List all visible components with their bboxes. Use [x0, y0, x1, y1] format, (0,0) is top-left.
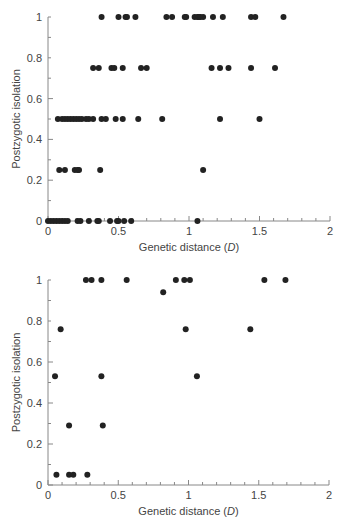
x-axis-title: Genetic distance (D)	[139, 241, 239, 253]
x-tick-label: 0	[45, 489, 51, 501]
data-point	[194, 373, 200, 379]
y-tick-label: 1	[36, 274, 42, 286]
x-tick-label: 0.5	[111, 225, 126, 237]
x-axis-title: Genetic distance (D)	[138, 505, 238, 517]
y-tick-label: 0	[36, 479, 42, 491]
data-point	[187, 277, 193, 283]
y-tick-label: 0.2	[27, 438, 42, 450]
data-point	[200, 167, 206, 173]
data-point	[217, 116, 223, 122]
data-point	[97, 167, 103, 173]
x-tick-label: 1	[185, 489, 191, 501]
data-point	[99, 14, 105, 20]
data-point	[209, 65, 215, 71]
data-point	[65, 218, 71, 224]
y-axis-title: Postzygotic isolation	[10, 333, 22, 433]
data-point	[103, 116, 109, 122]
data-point	[217, 65, 223, 71]
data-point	[116, 218, 122, 224]
data-point	[58, 326, 64, 332]
data-point	[124, 277, 130, 283]
data-point	[70, 472, 76, 478]
data-point	[128, 218, 134, 224]
data-point	[144, 65, 150, 71]
data-point	[96, 218, 102, 224]
data-point	[194, 218, 200, 224]
data-point	[252, 14, 258, 20]
data-point	[62, 167, 68, 173]
data-point	[183, 326, 189, 332]
data-point	[248, 65, 254, 71]
y-tick-label: 0.6	[27, 93, 42, 105]
y-tick-label: 0.4	[27, 397, 42, 409]
x-tick-label: 1.5	[252, 225, 267, 237]
data-point	[282, 277, 288, 283]
data-point	[160, 289, 166, 295]
data-point	[111, 65, 117, 71]
data-point	[66, 423, 72, 429]
data-point	[181, 277, 187, 283]
data-point	[86, 218, 92, 224]
data-point	[116, 14, 122, 20]
scatter-plot-bottom: 00.20.40.60.8100.511.52Genetic distance …	[0, 265, 346, 530]
y-tick-label: 0.8	[27, 52, 42, 64]
data-point	[83, 277, 89, 283]
data-point	[120, 116, 126, 122]
data-point	[90, 116, 96, 122]
x-tick-label: 1.5	[251, 489, 266, 501]
x-tick-label: 2	[326, 489, 332, 501]
data-point	[124, 14, 130, 20]
data-point	[210, 14, 216, 20]
y-axis-title: Postzygotic isolation	[10, 69, 22, 169]
data-point	[169, 14, 175, 20]
scatter-plot-top: 00.20.40.60.8100.511.52Genetic distance …	[0, 0, 346, 265]
data-point	[53, 472, 59, 478]
y-tick-label: 0.8	[27, 315, 42, 327]
data-point	[84, 472, 90, 478]
x-tick-label: 0	[45, 225, 51, 237]
y-tick-label: 0.6	[27, 356, 42, 368]
data-point	[280, 14, 286, 20]
scatter-panel-top: 00.20.40.60.8100.511.52Genetic distance …	[0, 0, 346, 265]
data-point	[135, 116, 141, 122]
data-point	[159, 116, 165, 122]
data-point	[120, 65, 126, 71]
data-point	[257, 116, 263, 122]
x-tick-label: 0.5	[111, 489, 126, 501]
data-point	[183, 14, 189, 20]
data-point	[220, 14, 226, 20]
data-point	[89, 277, 95, 283]
data-point	[77, 218, 83, 224]
data-point	[52, 373, 58, 379]
data-point	[261, 277, 267, 283]
data-point	[76, 167, 82, 173]
y-tick-label: 0.4	[27, 133, 42, 145]
data-point	[98, 373, 104, 379]
data-point	[98, 277, 104, 283]
data-point	[138, 65, 144, 71]
data-point	[113, 116, 119, 122]
y-tick-label: 0	[36, 215, 42, 227]
data-point	[121, 218, 127, 224]
scatter-panel-bottom: 00.20.40.60.8100.511.52Genetic distance …	[0, 265, 346, 530]
data-point	[107, 218, 113, 224]
data-point	[247, 326, 253, 332]
data-point	[132, 14, 138, 20]
data-point	[163, 14, 169, 20]
data-point	[90, 65, 96, 71]
data-point	[56, 167, 62, 173]
y-tick-label: 0.2	[27, 174, 42, 186]
data-point	[272, 65, 278, 71]
x-tick-label: 2	[327, 225, 333, 237]
y-tick-label: 1	[36, 11, 42, 23]
data-point	[225, 65, 231, 71]
x-tick-label: 1	[186, 225, 192, 237]
data-point	[200, 14, 206, 20]
data-point	[173, 277, 179, 283]
data-point	[96, 65, 102, 71]
data-point	[100, 423, 106, 429]
